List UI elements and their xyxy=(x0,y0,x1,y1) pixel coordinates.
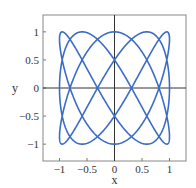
x-tick-label: 1 xyxy=(167,163,173,175)
lissajous-chart: −1−0.500.51−1−0.500.51 x y xyxy=(0,0,196,188)
ticks: −1−0.500.51−1−0.500.51 xyxy=(19,26,172,175)
x-tick-label: −0.5 xyxy=(77,163,97,175)
x-axis-label: x xyxy=(112,173,118,187)
y-tick-label: 0 xyxy=(34,82,40,94)
y-axis-label: y xyxy=(12,81,18,95)
y-tick-label: 1 xyxy=(34,26,40,38)
x-tick-label: −1 xyxy=(54,163,66,175)
x-tick-label: 0.5 xyxy=(135,163,149,175)
y-tick-label: −1 xyxy=(27,138,39,150)
y-tick-label: 0.5 xyxy=(25,54,39,66)
y-tick-label: −0.5 xyxy=(19,110,39,122)
